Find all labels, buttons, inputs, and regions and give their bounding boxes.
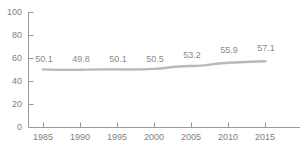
- y-tick-label-0: 0: [0, 123, 22, 132]
- x-tick-label-2015: 2015: [245, 133, 285, 142]
- data-label-1985: 50.1: [24, 55, 64, 64]
- x-tick-label-1990: 1990: [60, 133, 100, 142]
- x-tick-label-2005: 2005: [171, 133, 211, 142]
- y-tick-label-20: 20: [0, 100, 22, 109]
- line-chart: 100 80 60 40 20 0 1985 1990 1995 2000 20…: [0, 0, 302, 147]
- data-label-1995: 50.1: [98, 55, 138, 64]
- data-label-2000: 50.5: [135, 55, 175, 64]
- data-label-2010: 55.9: [209, 46, 249, 55]
- x-tick-label-2000: 2000: [134, 133, 174, 142]
- y-tick-label-40: 40: [0, 77, 22, 86]
- y-axis-ticks: [29, 13, 34, 128]
- x-tick-label-2010: 2010: [208, 133, 248, 142]
- data-label-2015: 57.1: [246, 44, 286, 53]
- y-tick-label-80: 80: [0, 31, 22, 40]
- data-label-2005: 53.2: [172, 51, 212, 60]
- y-tick-label-100: 100: [0, 8, 22, 17]
- x-tick-label-1985: 1985: [23, 133, 63, 142]
- plot-area: [0, 0, 302, 147]
- data-label-1990: 49.8: [61, 55, 101, 64]
- x-axis-ticks: [44, 123, 266, 128]
- y-tick-label-60: 60: [0, 54, 22, 63]
- x-tick-label-1995: 1995: [97, 133, 137, 142]
